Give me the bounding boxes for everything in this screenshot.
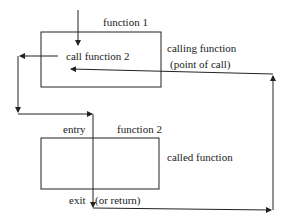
call-function2-label: call function 2: [66, 51, 130, 62]
calling-function-label: calling function: [167, 43, 236, 54]
function2-box: [41, 138, 159, 189]
or-return-label: (or return): [95, 195, 141, 206]
diagram-canvas: [0, 0, 285, 219]
exit-label: exit: [69, 195, 86, 206]
function1-title: function 1: [103, 17, 148, 28]
entry-label: entry: [63, 124, 86, 135]
return-path: [93, 208, 271, 210]
point-of-call-label: (point of call): [170, 59, 230, 70]
function2-title: function 2: [117, 124, 162, 135]
called-function-label: called function: [167, 152, 233, 163]
